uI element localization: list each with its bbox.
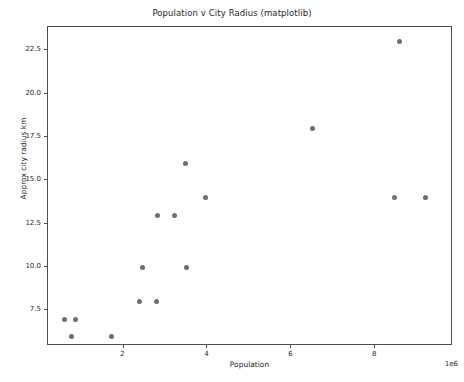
x-tick-mark <box>123 345 124 348</box>
scatter-point <box>423 195 428 200</box>
y-tick-label: 15.0 <box>25 175 41 183</box>
x-tick-mark <box>206 345 207 348</box>
scatter-points-layer <box>48 27 451 344</box>
y-tick-mark <box>44 179 47 180</box>
y-tick-label: 7.5 <box>30 305 41 313</box>
scatter-point <box>184 265 189 270</box>
x-tick-mark <box>290 345 291 348</box>
x-axis-label: Population <box>47 360 452 369</box>
scatter-point <box>183 161 188 166</box>
x-axis-offset-text: 1e6 <box>445 360 458 368</box>
y-tick-mark <box>44 309 47 310</box>
plot-area <box>47 26 452 345</box>
scatter-point <box>140 265 145 270</box>
x-tick-mark <box>374 345 375 348</box>
y-tick-mark <box>44 266 47 267</box>
scatter-point <box>109 334 114 339</box>
scatter-point <box>62 317 67 322</box>
y-tick-label: 12.5 <box>25 219 41 227</box>
y-tick-mark <box>44 136 47 137</box>
scatter-point <box>137 299 142 304</box>
y-tick-label: 10.0 <box>25 262 41 270</box>
y-tick-label: 17.5 <box>25 132 41 140</box>
scatter-point <box>69 334 74 339</box>
y-axis-label: Approx city radius km <box>19 79 28 239</box>
y-tick-label: 20.0 <box>25 89 41 97</box>
x-tick-label: 4 <box>204 350 208 358</box>
scatter-point <box>172 213 177 218</box>
scatter-point <box>155 213 160 218</box>
x-tick-label: 6 <box>288 350 292 358</box>
scatter-point <box>73 317 78 322</box>
chart-title: Population v City Radius (matplotlib) <box>0 8 464 18</box>
y-tick-mark <box>44 223 47 224</box>
scatter-point <box>154 299 159 304</box>
y-tick-mark <box>44 93 47 94</box>
scatter-point <box>310 126 315 131</box>
y-tick-label: 22.5 <box>25 45 41 53</box>
x-tick-label: 8 <box>372 350 376 358</box>
matplotlib-figure: Population v City Radius (matplotlib) 7.… <box>0 0 464 382</box>
scatter-point <box>392 195 397 200</box>
y-tick-mark <box>44 49 47 50</box>
x-tick-label: 2 <box>120 350 124 358</box>
scatter-point <box>397 39 402 44</box>
scatter-point <box>203 195 208 200</box>
